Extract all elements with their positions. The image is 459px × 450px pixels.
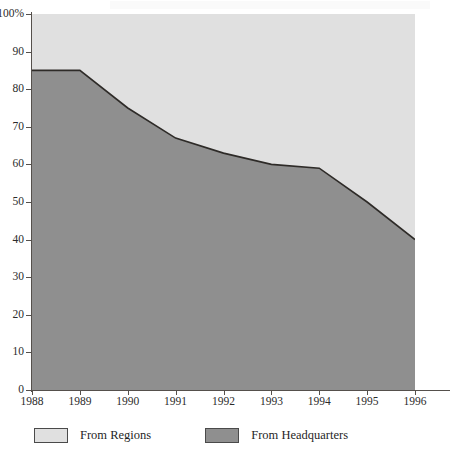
stacked-area-chart: 0102030405060708090100% 1988198919901991… — [0, 0, 459, 450]
y-tick — [26, 240, 32, 241]
x-axis-label: 1989 — [55, 396, 105, 408]
y-axis-label: 30 — [0, 271, 24, 283]
y-tick — [26, 164, 32, 165]
x-axis-label: 1995 — [342, 396, 392, 408]
x-axis-label: 1988 — [7, 396, 57, 408]
y-tick — [26, 277, 32, 278]
y-axis-label: 60 — [0, 158, 24, 170]
x-axis-label: 1992 — [199, 396, 249, 408]
legend-label-from-regions: From Regions — [80, 429, 151, 442]
x-axis-label: 1994 — [294, 396, 344, 408]
legend-item-from-headquarters[interactable]: From Headquarters — [205, 428, 348, 443]
legend-swatch-from-headquarters — [205, 428, 239, 443]
y-tick — [26, 202, 32, 203]
y-tick — [26, 315, 32, 316]
x-axis-label: 1996 — [390, 396, 440, 408]
y-axis-label: 80 — [0, 83, 24, 95]
y-axis-label: 70 — [0, 121, 24, 133]
x-axis-line — [30, 390, 450, 391]
x-axis-label: 1993 — [246, 396, 296, 408]
y-axis-label: 90 — [0, 46, 24, 58]
y-axis-label: 50 — [0, 196, 24, 208]
y-axis-label: 10 — [0, 346, 24, 358]
y-tick — [26, 89, 32, 90]
area-from-headquarters — [32, 70, 415, 390]
y-axis-label: 100% — [0, 8, 24, 20]
y-axis-label: 0 — [0, 384, 24, 396]
scan-artifact — [110, 1, 430, 9]
legend-label-from-headquarters: From Headquarters — [251, 429, 348, 442]
legend-swatch-from-regions — [34, 428, 68, 443]
y-tick — [26, 352, 32, 353]
chart-legend: From Regions From Headquarters — [0, 424, 459, 446]
y-tick — [26, 52, 32, 53]
y-tick — [26, 14, 32, 15]
y-axis-label: 40 — [0, 234, 24, 246]
y-tick — [26, 127, 32, 128]
legend-item-from-regions[interactable]: From Regions — [34, 428, 151, 443]
x-axis-label: 1990 — [103, 396, 153, 408]
plot-area — [32, 14, 415, 390]
y-axis-label: 20 — [0, 309, 24, 321]
series-layer — [32, 14, 415, 390]
x-axis-label: 1991 — [151, 396, 201, 408]
